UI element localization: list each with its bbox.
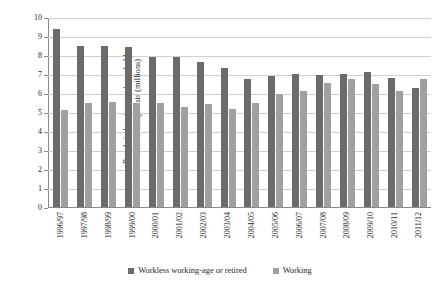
bar-working xyxy=(109,102,116,207)
chart-legend: Workless working-age or retiredWorking xyxy=(0,266,440,275)
x-axis-tick-labels: 1996/971997/981998/991999/002000/012001/… xyxy=(49,210,431,258)
x-tick-label: 2011/12 xyxy=(415,212,423,238)
x-tick-label: 2005/06 xyxy=(272,212,280,238)
bar-group xyxy=(97,18,121,207)
y-tick-label: 10 xyxy=(34,14,42,22)
y-tick-mark xyxy=(44,37,48,38)
x-tick-cell: 1998/99 xyxy=(97,210,121,258)
legend-item: Workless working-age or retired xyxy=(128,266,246,275)
bar-group xyxy=(312,18,336,207)
x-tick-label: 1999/00 xyxy=(129,212,137,238)
bar-workless xyxy=(316,75,323,207)
bar-group xyxy=(168,18,192,207)
y-tick-label: 9 xyxy=(38,33,42,41)
bar-group xyxy=(145,18,169,207)
bar-working xyxy=(396,91,403,207)
bar-workless xyxy=(388,78,395,207)
y-tick-label: 0 xyxy=(38,204,42,212)
y-tick-mark xyxy=(44,113,48,114)
bar-working xyxy=(229,109,236,207)
bar-group xyxy=(73,18,97,207)
y-tick-label: 4 xyxy=(38,128,42,136)
bar-group xyxy=(264,18,288,207)
x-tick-label: 1998/99 xyxy=(105,212,113,238)
plot-area: 012345678910 xyxy=(48,18,431,208)
x-tick-label: 2009/10 xyxy=(367,212,375,238)
x-tick-cell: 2003/04 xyxy=(216,210,240,258)
bar-working xyxy=(85,103,92,208)
bar-working xyxy=(181,107,188,207)
y-tick-label: 5 xyxy=(38,109,42,117)
bar-working xyxy=(276,94,283,207)
x-tick-label: 2008/09 xyxy=(343,212,351,238)
y-tick-mark xyxy=(44,132,48,133)
y-tick-mark xyxy=(44,208,48,209)
bar-working xyxy=(61,110,68,207)
y-tick-mark xyxy=(44,75,48,76)
legend-swatch-icon xyxy=(128,268,134,274)
y-tick-mark xyxy=(44,18,48,19)
y-tick-mark xyxy=(44,189,48,190)
x-tick-label: 2002/03 xyxy=(200,212,208,238)
x-tick-label: 2000/01 xyxy=(152,212,160,238)
legend-item: Working xyxy=(273,266,312,275)
bar-working xyxy=(420,79,427,207)
legend-label: Working xyxy=(283,266,312,275)
x-tick-cell: 2011/12 xyxy=(407,210,431,258)
bar-group xyxy=(49,18,73,207)
x-tick-cell: 1996/97 xyxy=(49,210,73,258)
bar-workless xyxy=(244,79,251,207)
bar-series-container xyxy=(49,18,431,207)
bar-workless xyxy=(101,46,108,208)
bar-workless xyxy=(125,47,132,207)
x-tick-label: 2006/07 xyxy=(296,212,304,238)
bar-workless xyxy=(53,29,60,207)
x-axis-line xyxy=(48,207,431,208)
bar-workless xyxy=(221,68,228,207)
bar-workless xyxy=(340,74,347,207)
bar-workless xyxy=(197,62,204,207)
legend-swatch-icon xyxy=(273,268,279,274)
bar-workless xyxy=(292,74,299,207)
x-tick-cell: 2002/03 xyxy=(192,210,216,258)
bar-group xyxy=(216,18,240,207)
x-tick-cell: 2008/09 xyxy=(336,210,360,258)
bar-group xyxy=(192,18,216,207)
x-tick-cell: 2005/06 xyxy=(264,210,288,258)
legend-label: Workless working-age or retired xyxy=(138,266,246,275)
y-tick-mark xyxy=(44,56,48,57)
x-tick-label: 1997/98 xyxy=(81,212,89,238)
x-tick-label: 1996/97 xyxy=(57,212,65,238)
bar-working xyxy=(205,104,212,207)
y-tick-mark xyxy=(44,94,48,95)
y-tick-label: 1 xyxy=(38,185,42,193)
x-tick-label: 2003/04 xyxy=(224,212,232,238)
y-tick-mark xyxy=(44,151,48,152)
bar-working xyxy=(252,103,259,207)
bar-working xyxy=(372,84,379,207)
bar-workless xyxy=(364,72,371,207)
bar-workless xyxy=(77,46,84,208)
bar-working xyxy=(133,103,140,208)
bar-workless xyxy=(268,76,275,207)
x-tick-label: 2001/02 xyxy=(176,212,184,238)
x-tick-cell: 1997/98 xyxy=(73,210,97,258)
x-tick-cell: 2001/02 xyxy=(168,210,192,258)
y-tick-label: 8 xyxy=(38,52,42,60)
x-tick-cell: 2007/08 xyxy=(312,210,336,258)
y-axis-title: People in low-income households after ho… xyxy=(8,0,34,215)
bar-working xyxy=(157,103,164,208)
x-tick-cell: 2010/11 xyxy=(383,210,407,258)
x-tick-cell: 1999/00 xyxy=(121,210,145,258)
y-tick-mark xyxy=(44,170,48,171)
x-tick-label: 2007/08 xyxy=(320,212,328,238)
bar-chart-figure: People in low-income households after ho… xyxy=(0,0,440,289)
x-tick-cell: 2000/01 xyxy=(145,210,169,258)
bar-group xyxy=(383,18,407,207)
bar-group xyxy=(359,18,383,207)
bar-working xyxy=(324,83,331,207)
x-tick-label: 2010/11 xyxy=(391,212,399,238)
x-tick-cell: 2004/05 xyxy=(240,210,264,258)
y-tick-label: 7 xyxy=(38,71,42,79)
y-tick-label: 2 xyxy=(38,166,42,174)
